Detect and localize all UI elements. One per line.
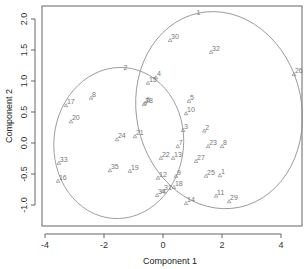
data-point: 15: [146, 76, 157, 85]
point-label: 9: [177, 169, 181, 176]
data-point: 9: [174, 169, 181, 178]
point-label: 30: [171, 33, 179, 40]
point-label: 5: [190, 94, 194, 101]
point-label: 17: [67, 98, 75, 105]
data-point: 2: [203, 124, 210, 133]
y-tick-label: 1.0: [19, 75, 29, 88]
point-label: 3: [184, 123, 188, 130]
y-tick-label: -0.5: [19, 166, 29, 182]
point-label: 28: [145, 97, 153, 104]
point-label: 11: [217, 189, 224, 196]
data-point: 33: [57, 156, 68, 165]
point-label: 27: [197, 154, 205, 161]
y-axis: -1.0-0.50.00.51.01.52.0: [19, 13, 35, 213]
x-tick-label: 2: [219, 240, 224, 250]
x-tick-label: -2: [100, 240, 108, 250]
data-point: 8: [89, 91, 96, 100]
data-point: 27: [194, 154, 205, 163]
data-point: 19: [128, 164, 139, 173]
point-label: 1: [221, 168, 225, 175]
point-label: 14: [187, 196, 195, 203]
point-label: 8: [92, 91, 96, 98]
point-label: 29: [230, 194, 238, 201]
data-point: 24: [115, 132, 126, 141]
data-point: 21: [133, 129, 144, 138]
point-label: 12: [159, 171, 167, 178]
point-label: 32: [212, 45, 220, 52]
data-point: 1: [218, 168, 225, 177]
data-point: 7: [176, 139, 183, 148]
data-point: 20: [69, 114, 80, 123]
point-label: 22: [162, 151, 170, 158]
point-label: 13: [174, 151, 182, 158]
point-label: 25: [207, 169, 215, 176]
point-label: 23: [209, 139, 217, 146]
data-point: 22: [159, 151, 170, 160]
data-points: 1234567891011121314151617181920212223242…: [56, 33, 303, 205]
x-axis-title: Component 1: [143, 256, 197, 266]
point-label: 8: [223, 139, 227, 146]
point-label: 10: [187, 106, 195, 113]
point-label: 34: [158, 188, 166, 195]
data-point: 17: [64, 98, 75, 107]
data-point: 23: [206, 139, 217, 148]
point-label: 33: [60, 156, 68, 163]
data-point: 5: [187, 94, 194, 103]
point-label: 2: [205, 124, 209, 131]
data-point: 8: [220, 139, 227, 148]
data-point: 26: [292, 67, 303, 76]
cluster-label: 1: [196, 9, 200, 16]
y-axis-title: Component 2: [4, 89, 14, 143]
data-point: 25: [204, 169, 215, 178]
data-point: 35: [108, 163, 119, 172]
x-tick-label: -4: [41, 240, 49, 250]
y-tick-label: 0.0: [19, 137, 29, 150]
point-label: 4: [157, 70, 161, 77]
point-label: 20: [72, 114, 80, 121]
y-tick-label: 0.5: [19, 106, 29, 119]
cluster-ellipse: [48, 62, 190, 224]
point-label: 21: [136, 129, 144, 136]
x-tick-label: 0: [160, 240, 165, 250]
y-tick-label: 1.5: [19, 44, 29, 57]
point-label: 26: [295, 67, 303, 74]
cluster-label: 2: [123, 64, 127, 71]
y-tick-label: 2.0: [19, 13, 29, 26]
x-tick-label: 4: [278, 240, 283, 250]
data-point: 29: [227, 194, 238, 203]
data-point: 30: [168, 33, 179, 42]
point-label: 19: [131, 164, 139, 171]
point-label: 35: [111, 163, 119, 170]
data-point: 13: [171, 151, 182, 160]
data-point: 11: [214, 189, 224, 198]
data-point: 10: [184, 106, 195, 115]
point-label: 16: [59, 174, 67, 181]
point-label: 15: [149, 76, 157, 83]
x-axis: -4-2024: [41, 234, 284, 250]
point-label: 18: [175, 180, 183, 187]
cluster-plot: 12 1234567891011121314151617181920212223…: [0, 0, 308, 269]
cluster-ellipse: [118, 0, 308, 224]
data-point: 32: [209, 45, 220, 54]
point-label: 24: [118, 132, 126, 139]
y-tick-label: -1.0: [19, 197, 29, 213]
point-label: 7: [179, 139, 183, 146]
